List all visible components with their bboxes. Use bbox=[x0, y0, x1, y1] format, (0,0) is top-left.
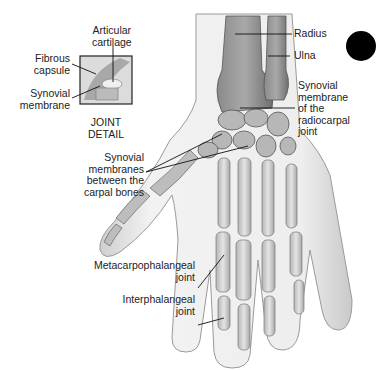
hand-anatomy-diagram: Articular cartilage Fibrous capsule Syno… bbox=[0, 0, 378, 370]
label-metacarpophalangeal: Metacarpophalangeal joint bbox=[70, 260, 195, 283]
marker-dot bbox=[346, 31, 376, 61]
label-ulna: Ulna bbox=[294, 50, 316, 62]
joint-detail-inset bbox=[80, 56, 132, 104]
forearm-bones bbox=[217, 16, 289, 112]
label-synovial-radiocarpal: Synovial membrane of the radiocarpal joi… bbox=[298, 80, 350, 138]
label-articular-cartilage: Articular cartilage bbox=[92, 25, 132, 48]
label-synovial-membrane: Synovial membrane bbox=[10, 88, 70, 111]
label-joint-detail: JOINT DETAIL bbox=[86, 117, 126, 140]
label-synovial-carpal: Synovial membranes between the carpal bo… bbox=[60, 152, 144, 198]
label-fibrous-capsule: Fibrous capsule bbox=[22, 53, 70, 76]
label-radius: Radius bbox=[294, 28, 327, 40]
label-interphalangeal: Interphalangeal joint bbox=[100, 294, 195, 317]
